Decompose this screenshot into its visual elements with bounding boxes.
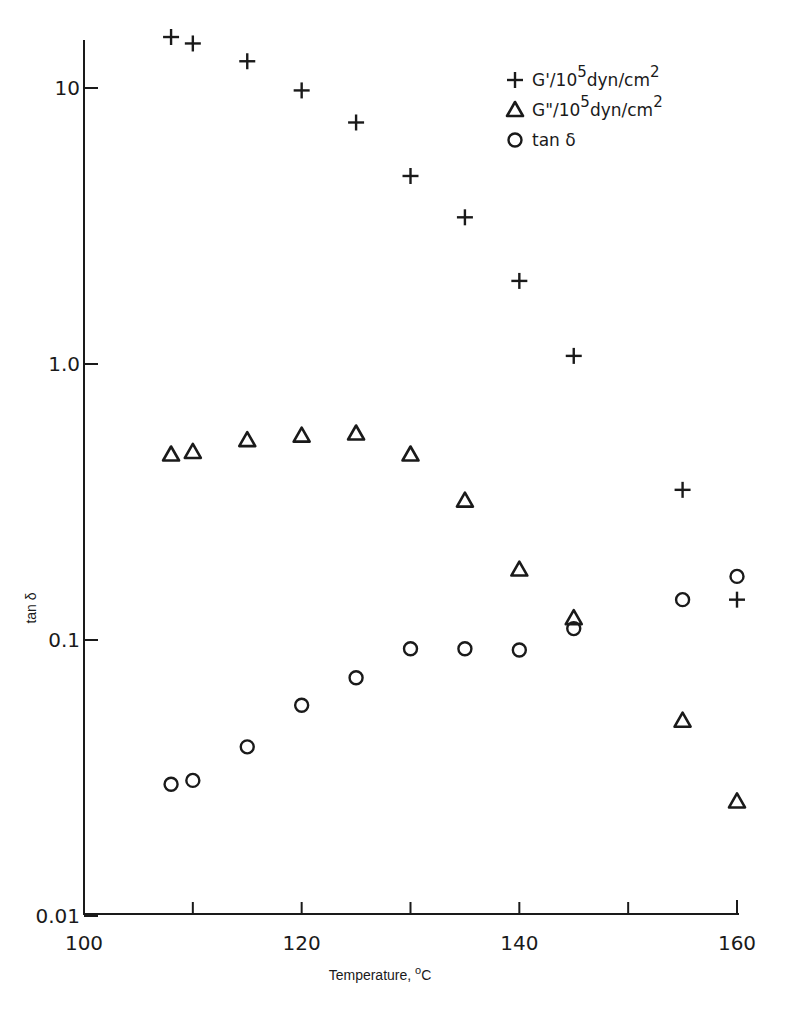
triangle-marker [675,713,691,727]
triangle-marker [729,793,745,807]
triangle-marker [403,447,419,461]
plus-marker [511,273,527,289]
circle-marker [241,740,254,753]
circle-marker [165,778,178,791]
circle-marker [731,570,744,583]
y-tick-label: 10 [55,76,80,100]
x-axis-title: Temperature, oC [329,964,432,983]
legend-label: G'/105dyn/cm2 [532,63,660,90]
circle-marker [295,699,308,712]
triangle-marker [163,447,179,461]
plus-marker [457,209,473,225]
circle-marker [676,593,689,606]
circle-marker [350,671,363,684]
triangle-marker [507,102,523,116]
y-tick-label: 1.0 [48,352,80,376]
y-tick-label: 0.01 [35,904,80,928]
plus-marker [185,35,201,51]
plus-marker [566,348,582,364]
x-ticks: 100120140160 [65,900,756,955]
triangle-marker [185,444,201,458]
plus-marker [403,168,419,184]
triangle-marker [348,426,364,440]
plus-marker [348,114,364,130]
x-tick-label: 100 [65,931,103,955]
plus-marker [675,482,691,498]
y-tick-label: 0.1 [48,628,80,652]
x-tick-label: 160 [718,931,756,955]
circle-marker [186,774,199,787]
circle-marker [458,642,471,655]
triangle-marker [457,493,473,507]
plus-marker [239,53,255,69]
plus-marker [729,592,745,608]
legend-label: G"/105dyn/cm2 [532,93,663,120]
plus-marker [163,29,179,45]
triangle-marker [294,428,310,442]
circle-marker [509,134,522,147]
triangle-marker [239,432,255,446]
plus-marker [294,82,310,98]
x-tick-label: 120 [283,931,321,955]
x-tick-label: 140 [500,931,538,955]
data-points [163,29,745,807]
legend-label: tan δ [532,130,576,150]
circle-marker [513,643,526,656]
legend: G'/105dyn/cm2G"/105dyn/cm2tan δ [507,63,663,150]
y-axis-title: tan δ [23,592,39,623]
circle-marker [404,642,417,655]
chart: 100120140160 101.00.10.01 Temperature, o… [0,0,793,1010]
y-ticks: 101.00.10.01 [35,76,98,928]
triangle-marker [511,562,527,576]
plus-marker [507,72,523,88]
